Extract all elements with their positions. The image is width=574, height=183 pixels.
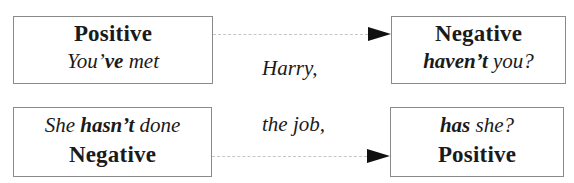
row2-middle-text: the job, (262, 112, 325, 137)
row2-connector-line (212, 156, 367, 157)
clause-part: You’ (67, 49, 105, 73)
row2-arrowhead-icon (367, 149, 390, 163)
tag-pronoun: she? (470, 113, 514, 137)
row1-connector-line (213, 34, 368, 35)
clause-part: done (134, 113, 180, 137)
main-clause-text: You’ve met (14, 51, 212, 72)
clause-part: met (123, 49, 159, 73)
tag-auxiliary: haven’t (423, 49, 488, 73)
polarity-label-positive: Positive (14, 22, 212, 45)
question-tag-text: haven’t you? (392, 51, 565, 72)
clause-part: She (45, 113, 81, 137)
tag-pronoun: you? (488, 49, 534, 73)
polarity-label-positive: Positive (391, 143, 563, 166)
row2-left-box: She hasn’t done Negative (13, 107, 212, 177)
polarity-label-negative: Negative (14, 143, 211, 166)
auxiliary-verb: ve (105, 49, 124, 73)
row1-right-box: Negative haven’t you? (391, 16, 566, 84)
row1-arrowhead-icon (368, 27, 391, 41)
tag-auxiliary: has (440, 113, 470, 137)
polarity-label-negative: Negative (392, 22, 565, 45)
row1-left-box: Positive You’ve met (13, 16, 213, 84)
row1-middle-text: Harry, (262, 56, 317, 81)
row2-right-box: has she? Positive (390, 107, 564, 177)
main-clause-text: She hasn’t done (14, 115, 211, 136)
question-tag-text: has she? (391, 115, 563, 136)
auxiliary-verb: hasn’t (80, 113, 134, 137)
